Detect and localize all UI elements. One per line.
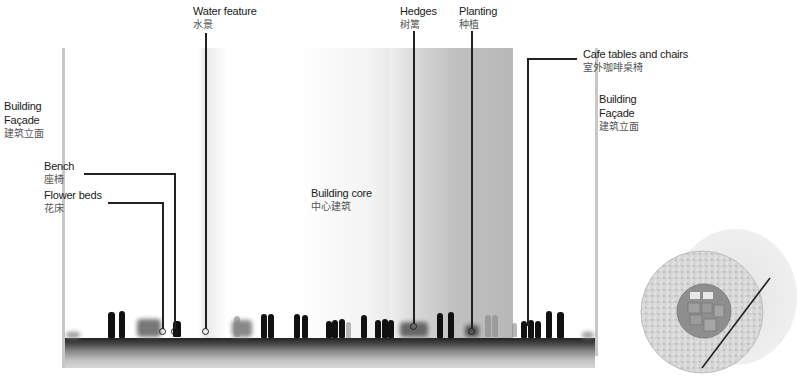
flower-beds-label: Flower beds 花床	[44, 188, 102, 215]
cafe-leader-horizontal	[527, 58, 577, 60]
flower-beds-leader-vertical	[162, 202, 164, 329]
flower-beds-marker	[159, 328, 166, 335]
facade-left-label: Building Façade 建筑立面	[4, 99, 44, 140]
hedges-leader	[413, 31, 415, 324]
bench-leader-horizontal	[84, 173, 175, 175]
left-edge-plant	[66, 332, 80, 338]
building-core-label: Building core 中心建筑	[311, 186, 372, 213]
flower-bed-shape	[137, 319, 161, 337]
right-facade-line	[595, 48, 598, 356]
building-core-volume	[372, 48, 513, 338]
facade-right-label: Building Façade 建筑立面	[599, 92, 639, 133]
ground-slab	[65, 338, 595, 368]
planting-leader	[471, 31, 473, 329]
water-feature-leader	[205, 33, 207, 329]
key-plan	[630, 215, 800, 379]
planting-label: Planting 种植	[459, 4, 497, 31]
bench-marker	[171, 328, 178, 335]
cafe-leader-vertical	[527, 58, 529, 326]
bench-label: Bench 座椅	[44, 159, 74, 186]
site-plan-icon	[630, 215, 800, 379]
hedges-label: Hedges 树篱	[400, 4, 437, 31]
flower-beds-leader-horizontal	[108, 202, 163, 204]
water-feature-column	[198, 48, 228, 338]
right-edge-plant	[582, 332, 594, 338]
cafe-label: Cafe tables and chairs 室外咖啡桌椅	[583, 47, 688, 74]
bench-leader-vertical	[174, 173, 176, 329]
planting-marker	[468, 328, 475, 335]
water-feature-marker	[202, 328, 209, 335]
water-feature-label: Water feature 水景	[193, 4, 257, 31]
hedges-marker	[410, 323, 417, 330]
